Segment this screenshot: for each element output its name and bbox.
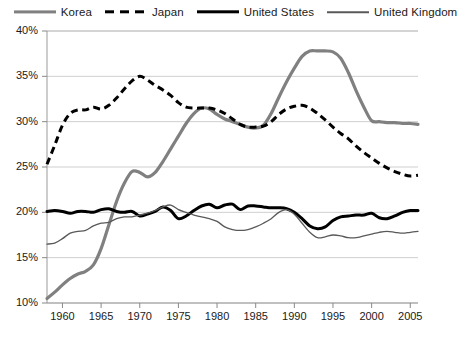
legend-swatch-korea-icon (14, 7, 56, 17)
plot-area: 10%15%20%25%30%35%40% 196019651970197519… (0, 24, 429, 337)
y-tick-label-10: 10% (2, 296, 38, 308)
legend-swatch-united-kingdom-icon (327, 7, 369, 17)
plot-svg (0, 24, 429, 337)
legend-swatch-united-states-icon (197, 7, 239, 17)
x-tick-label-1990: 1990 (273, 310, 315, 322)
x-tick-label-1965: 1965 (80, 310, 122, 322)
legend-swatch-japan-icon (105, 7, 147, 17)
x-tick-label-2005: 2005 (389, 310, 431, 322)
legend-item-united-states: United States (197, 6, 314, 18)
legend-item-united-kingdom: United Kingdom (327, 6, 457, 18)
x-tick-label-1985: 1985 (235, 310, 277, 322)
legend-item-japan: Japan (105, 6, 184, 18)
y-tick-label-35: 35% (2, 69, 38, 81)
x-tick-label-1970: 1970 (119, 310, 161, 322)
x-tick-label-1980: 1980 (196, 310, 238, 322)
x-tick-label-1975: 1975 (157, 310, 199, 322)
legend-label-united-states: United States (244, 6, 314, 18)
x-tick-label-2000: 2000 (351, 310, 393, 322)
y-tick-label-40: 40% (2, 24, 38, 36)
legend-label-korea: Korea (61, 6, 92, 18)
y-tick-label-20: 20% (2, 205, 38, 217)
series-line-united-kingdom (47, 205, 418, 244)
legend-item-korea: Korea (14, 6, 92, 18)
legend-label-japan: Japan (152, 6, 184, 18)
y-tick-label-30: 30% (2, 115, 38, 127)
y-tick-label-15: 15% (2, 251, 38, 263)
series-line-japan (47, 76, 418, 176)
x-tick-label-1960: 1960 (41, 310, 83, 322)
x-tick-label-1995: 1995 (312, 310, 354, 322)
legend-label-united-kingdom: United Kingdom (374, 6, 457, 18)
series-line-korea (47, 51, 418, 299)
y-tick-label-25: 25% (2, 160, 38, 172)
series-line-united-states (47, 204, 418, 229)
chart-legend: Korea Japan United States United Kingdom (0, 0, 429, 24)
